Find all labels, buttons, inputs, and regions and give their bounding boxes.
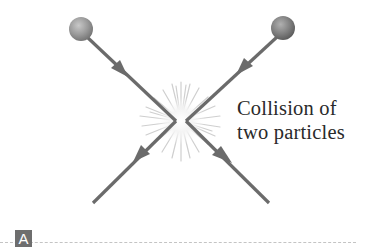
- particle-1-ball-icon: [69, 17, 93, 41]
- caption-line-2: two particles: [237, 120, 345, 144]
- figure-caption: Collision of two particles: [237, 96, 345, 144]
- panel-divider: [0, 242, 356, 243]
- particle-1-outgoing-path: [93, 121, 176, 203]
- particle-1-incoming-path: [87, 37, 176, 121]
- caption-line-1: Collision of: [237, 96, 345, 120]
- particle-2-ball-icon: [271, 16, 295, 40]
- panel-label: A: [15, 230, 32, 247]
- collision-burst-icon: [140, 82, 220, 161]
